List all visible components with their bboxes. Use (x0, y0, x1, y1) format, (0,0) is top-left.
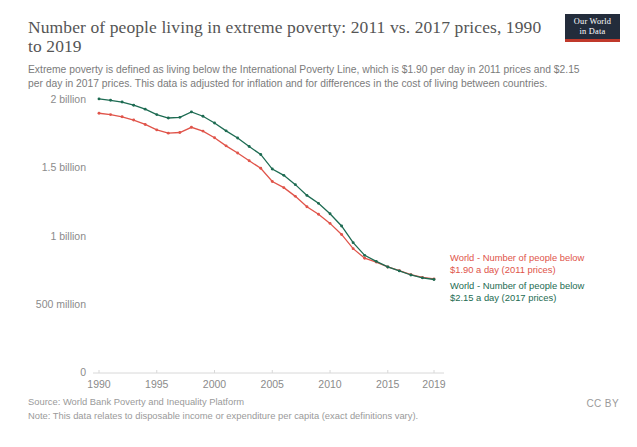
data-point[interactable] (317, 213, 320, 216)
data-point[interactable] (190, 126, 193, 129)
license-label[interactable]: CC BY (586, 398, 619, 409)
chart-card: Number of people living in extreme pover… (0, 0, 637, 447)
legend-series-2017-line1: World - Number of people below (450, 280, 584, 292)
legend-series-2011-line1: World - Number of people below (450, 252, 584, 264)
data-point[interactable] (190, 110, 193, 113)
series-2017-points (98, 97, 436, 280)
data-point[interactable] (352, 241, 355, 244)
data-point[interactable] (271, 168, 274, 171)
data-point[interactable] (305, 205, 308, 208)
data-point[interactable] (213, 121, 216, 124)
data-point[interactable] (121, 101, 124, 104)
data-point[interactable] (178, 131, 181, 134)
data-point[interactable] (340, 233, 343, 236)
chart-header: Number of people living in extreme pover… (28, 18, 558, 91)
series-2011-prices-group[interactable] (98, 112, 436, 281)
chart-footer: Source: World Bank Poverty and Inequalit… (28, 395, 608, 423)
data-point[interactable] (282, 186, 285, 189)
y-tick-label: 1.5 billion (0, 161, 86, 173)
data-point[interactable] (121, 115, 124, 118)
data-point[interactable] (271, 180, 274, 183)
data-point[interactable] (144, 123, 147, 126)
data-point[interactable] (167, 132, 170, 135)
data-point[interactable] (248, 159, 251, 162)
y-tick-label: 2 billion (0, 93, 86, 105)
data-point[interactable] (236, 137, 239, 140)
data-point[interactable] (421, 276, 424, 279)
data-point[interactable] (132, 119, 135, 122)
data-point[interactable] (294, 183, 297, 186)
logo-line-1: Our World (574, 17, 612, 27)
legend-series-2017-line2: $2.15 a day (2017 prices) (450, 292, 584, 304)
data-point[interactable] (98, 97, 101, 100)
data-point[interactable] (363, 254, 366, 257)
x-tick-label: 1995 (127, 378, 187, 390)
data-point[interactable] (155, 128, 158, 131)
data-point[interactable] (109, 113, 112, 116)
data-point[interactable] (386, 265, 389, 268)
series-2017-prices-group[interactable] (98, 97, 436, 280)
data-point[interactable] (236, 152, 239, 155)
data-point[interactable] (144, 108, 147, 111)
series-2011-points (98, 112, 436, 281)
data-point[interactable] (98, 112, 101, 115)
data-point[interactable] (259, 167, 262, 170)
page-title: Number of people living in extreme pover… (28, 18, 558, 56)
data-point[interactable] (167, 117, 170, 120)
data-point[interactable] (202, 130, 205, 133)
source-text: Source: World Bank Poverty and Inequalit… (28, 395, 608, 409)
data-point[interactable] (340, 225, 343, 228)
line-chart-svg[interactable] (0, 88, 637, 388)
y-tick-label: 500 million (0, 298, 86, 310)
logo-line-2: in Data (580, 27, 606, 37)
data-point[interactable] (178, 116, 181, 119)
x-tick-label: 1990 (69, 378, 129, 390)
data-point[interactable] (282, 174, 285, 177)
data-point[interactable] (329, 222, 332, 225)
x-tick-label: 2005 (242, 378, 302, 390)
data-point[interactable] (225, 144, 228, 147)
y-tick-label: 1 billion (0, 230, 86, 242)
data-point[interactable] (329, 212, 332, 215)
x-tick-label: 2000 (185, 378, 245, 390)
plot-area[interactable]: 0500 million1 billion1.5 billion2 billio… (0, 88, 637, 388)
data-point[interactable] (375, 260, 378, 263)
x-tick-label: 2019 (404, 378, 464, 390)
series-2011-line[interactable] (99, 113, 434, 279)
data-point[interactable] (317, 202, 320, 205)
data-point[interactable] (363, 257, 366, 260)
data-point[interactable] (132, 104, 135, 107)
data-point[interactable] (294, 195, 297, 198)
data-point[interactable] (352, 247, 355, 250)
x-tick-label: 2010 (300, 378, 360, 390)
chart-subtitle: Extreme poverty is defined as living bel… (28, 63, 591, 91)
data-point[interactable] (225, 129, 228, 132)
data-point[interactable] (202, 115, 205, 118)
data-point[interactable] (305, 194, 308, 197)
data-point[interactable] (155, 113, 158, 116)
y-tick-label: 0 (0, 366, 86, 378)
data-point[interactable] (248, 145, 251, 148)
data-point[interactable] (398, 269, 401, 272)
data-point[interactable] (409, 274, 412, 277)
data-point[interactable] (213, 136, 216, 139)
data-point[interactable] (259, 153, 262, 156)
legend-series-2011-prices[interactable]: World - Number of people below $1.90 a d… (450, 252, 584, 275)
data-point[interactable] (433, 278, 436, 281)
legend-series-2011-line2: $1.90 a day (2011 prices) (450, 264, 584, 276)
legend-series-2017-prices[interactable]: World - Number of people below $2.15 a d… (450, 280, 584, 303)
our-world-in-data-logo[interactable]: Our World in Data (565, 14, 620, 42)
note-text: Note: This data relates to disposable in… (28, 409, 608, 423)
data-point[interactable] (109, 99, 112, 102)
